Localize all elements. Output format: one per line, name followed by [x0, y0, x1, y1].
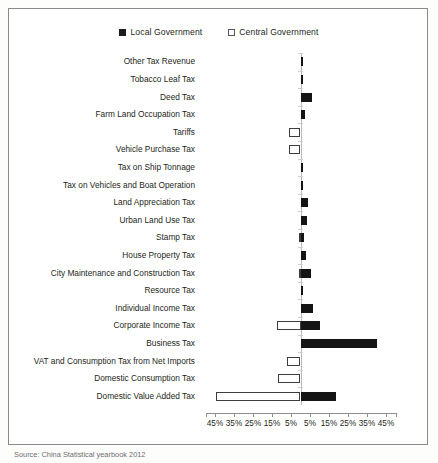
legend-item-1: Central Government: [228, 27, 318, 37]
axis-tick-label: 5%: [304, 419, 316, 428]
axis-end-tick: [396, 413, 397, 417]
category-label: Business Tax: [146, 339, 195, 348]
bar-local-government: [301, 216, 307, 225]
bar-local-government: [301, 321, 320, 330]
axis-tick: [367, 413, 368, 417]
category-tick: [298, 264, 303, 265]
bar-central-government: [216, 392, 301, 401]
category-label: Tax on Ship Tonnage: [118, 163, 195, 172]
category-tick: [298, 141, 303, 142]
axis-tick: [215, 413, 216, 417]
bar-central-government: [278, 374, 301, 383]
bar-local-government: [301, 286, 303, 295]
category-label: Corporate Income Tax: [114, 321, 195, 330]
category-tick: [298, 335, 303, 336]
axis-tick-label: 35%: [226, 419, 242, 428]
source-caption: Source: China Statistical yearbook 2012: [14, 450, 314, 461]
category-label: Tariffs: [173, 128, 195, 137]
bar-central-government: [299, 233, 301, 242]
bar-local-government: [301, 57, 303, 66]
axis-tick: [253, 413, 254, 417]
category-tick: [298, 247, 303, 248]
chart-legend: Local GovernmentCentral Government: [9, 27, 429, 37]
axis-tick-label: 5%: [285, 419, 297, 428]
axis-tick: [329, 413, 330, 417]
axis-tick-label: 45%: [378, 419, 394, 428]
bar-local-government: [301, 75, 303, 84]
legend-item-0: Local Government: [119, 27, 202, 37]
bars-container: [201, 53, 429, 413]
category-tick: [298, 370, 303, 371]
axis-tick: [310, 413, 311, 417]
bar-local-government: [301, 181, 303, 190]
category-label: Deed Tax: [160, 93, 195, 102]
bar-local-government: [301, 163, 303, 172]
category-label: Other Tax Revenue: [124, 57, 195, 66]
category-tick: [298, 282, 303, 283]
axis-tick-label: 15%: [264, 419, 280, 428]
axis-tick: [234, 413, 235, 417]
category-label: Stamp Tax: [156, 233, 195, 242]
axis-tick-label: 15%: [321, 419, 337, 428]
filled-square-icon: [119, 29, 126, 36]
hollow-square-icon: [228, 29, 235, 36]
bar-local-government: [301, 198, 308, 207]
category-tick: [298, 53, 303, 54]
bar-local-government: [301, 339, 377, 348]
legend-item-label: Local Government: [130, 27, 202, 37]
category-tick: [298, 299, 303, 300]
bar-central-government: [289, 145, 300, 154]
category-label: City Maintenance and Construction Tax: [51, 269, 195, 278]
bar-local-government: [301, 251, 307, 260]
category-label: Land Appreciation Tax: [114, 198, 196, 207]
chart-frame: Local GovernmentCentral Government Other…: [8, 8, 428, 445]
category-tick: [298, 123, 303, 124]
bar-central-government: [299, 269, 301, 278]
category-tick: [298, 88, 303, 89]
category-tick: [298, 352, 303, 353]
bar-local-government: [301, 269, 311, 278]
axis-tick: [291, 413, 292, 417]
category-label: Tobacco Leaf Tax: [131, 75, 195, 84]
category-label: Farm Land Occupation Tax: [96, 110, 195, 119]
axis-tick: [348, 413, 349, 417]
chart-figure: Local GovernmentCentral Government Other…: [0, 0, 438, 463]
category-tick: [298, 106, 303, 107]
axis-tick-label: 25%: [340, 419, 356, 428]
category-tick: [298, 194, 303, 195]
category-label: Tax on Vehicles and Boat Operation: [63, 181, 195, 190]
category-tick: [298, 71, 303, 72]
bar-central-government: [287, 357, 300, 366]
bar-local-government: [301, 304, 313, 313]
category-tick: [298, 317, 303, 318]
bar-central-government: [289, 128, 300, 137]
axis-tick-label: 45%: [207, 419, 223, 428]
axis-tick-label: 25%: [245, 419, 261, 428]
category-label: VAT and Consumption Tax from Net Imports: [34, 357, 195, 366]
bar-central-government: [277, 321, 301, 330]
axis-tick-label: 35%: [359, 419, 375, 428]
bar-local-government: [301, 110, 305, 119]
category-tick: [298, 387, 303, 388]
category-label: Individual Income Tax: [115, 304, 195, 313]
bar-local-government: [301, 93, 313, 102]
axis-end-tick: [206, 413, 207, 417]
value-axis: 45%35%25%15%5%5%15%25%35%45%: [201, 413, 429, 447]
category-label: Urban Land Use Tax: [120, 216, 196, 225]
category-tick: [298, 211, 303, 212]
axis-tick: [386, 413, 387, 417]
category-label: Resource Tax: [144, 286, 195, 295]
axis-tick: [272, 413, 273, 417]
category-tick: [298, 159, 303, 160]
category-label: Domestic Value Added Tax: [97, 392, 195, 401]
category-label: House Property Tax: [122, 251, 195, 260]
plot-area: Other Tax RevenueTobacco Leaf TaxDeed Ta…: [9, 53, 429, 413]
category-label: Domestic Consumption Tax: [94, 374, 195, 383]
category-tick: [298, 176, 303, 177]
category-label: Vehicle Purchase Tax: [116, 145, 195, 154]
category-tick: [298, 229, 303, 230]
bar-local-government: [301, 233, 304, 242]
category-axis-labels: Other Tax RevenueTobacco Leaf TaxDeed Ta…: [9, 53, 201, 413]
bar-local-government: [301, 392, 336, 401]
legend-item-label: Central Government: [239, 27, 318, 37]
